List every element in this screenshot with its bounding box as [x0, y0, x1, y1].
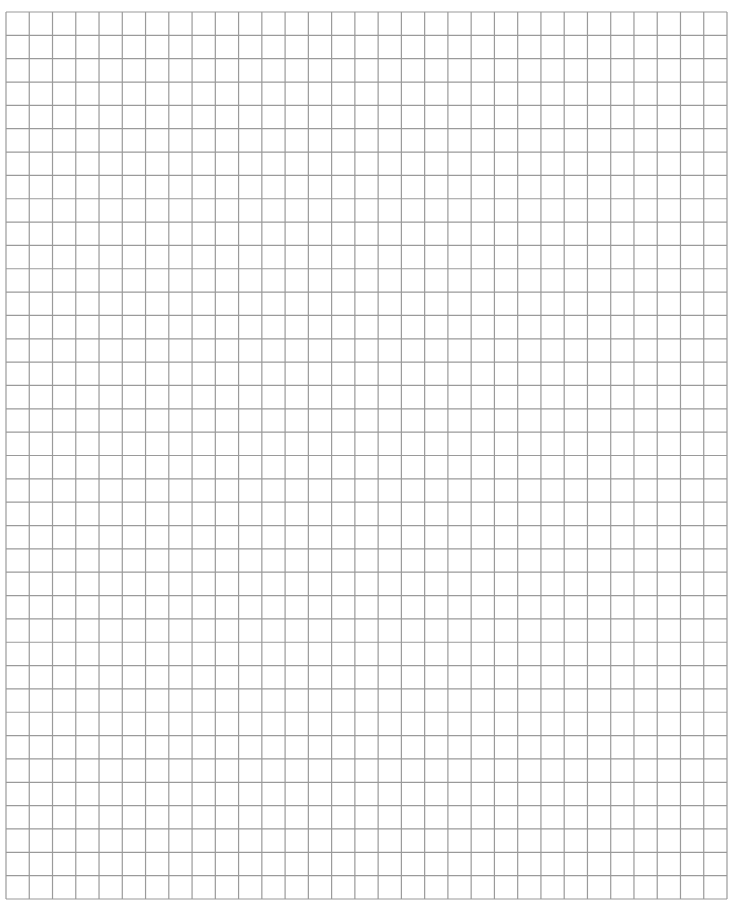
- graph-paper-grid: [0, 0, 732, 902]
